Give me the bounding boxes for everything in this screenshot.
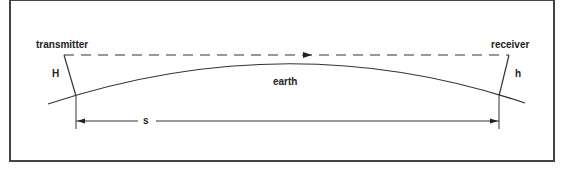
receiver-mast xyxy=(499,55,509,96)
distance-label: s xyxy=(143,115,149,126)
transmitter-mast xyxy=(64,55,76,96)
left-arrowhead-icon xyxy=(77,119,85,124)
receiver-height-label: h xyxy=(515,68,521,79)
earth-label: earth xyxy=(273,76,297,87)
right-arrowhead-icon xyxy=(490,119,498,124)
direction-arrowhead-icon xyxy=(303,52,312,58)
receiver-label: receiver xyxy=(491,39,529,50)
transmitter-height-label: H xyxy=(52,68,59,79)
transmitter-label: transmitter xyxy=(36,39,88,50)
radio-horizon-diagram: transmitter receiver H h earth s xyxy=(0,0,562,174)
